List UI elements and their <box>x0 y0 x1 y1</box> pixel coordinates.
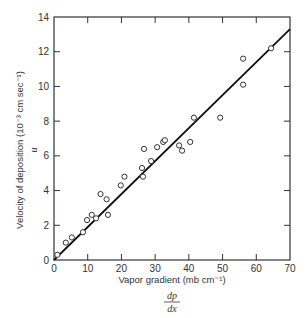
x-tick-label: 10 <box>82 263 94 274</box>
data-point <box>218 115 223 120</box>
fit-line <box>54 29 290 260</box>
data-point <box>69 235 74 240</box>
data-point <box>84 217 89 222</box>
data-point <box>155 145 160 150</box>
data-point <box>122 174 127 179</box>
x-tick-label: 30 <box>150 263 162 274</box>
data-point <box>141 146 146 151</box>
data-point <box>80 230 85 235</box>
y-tick-label: 6 <box>43 150 49 161</box>
x-symbol-denominator: dx <box>167 303 177 314</box>
data-point <box>148 158 153 163</box>
x-axis-label: Vapor gradient (mb cm⁻¹) <box>118 274 225 285</box>
y-tick-label: 0 <box>43 255 49 266</box>
data-point <box>94 216 99 221</box>
data-point <box>140 174 145 179</box>
tick-labels: 01020304050607002468101214 <box>38 12 296 275</box>
data-point <box>241 82 246 87</box>
data-point <box>98 191 103 196</box>
y-axis-label: Velocity of deposition (10⁻³ cm sec⁻¹) <box>14 71 25 229</box>
data-point <box>104 197 109 202</box>
y-tick-label: 12 <box>38 46 50 57</box>
data-point <box>162 138 167 143</box>
x-tick-label: 60 <box>251 263 263 274</box>
data-point <box>188 139 193 144</box>
data-point <box>105 212 110 217</box>
plot-frame <box>54 17 290 260</box>
data-point <box>241 56 246 61</box>
x-tick-label: 40 <box>183 263 195 274</box>
y-tick-label: 10 <box>38 81 50 92</box>
data-point <box>269 46 274 51</box>
x-tick-label: 70 <box>284 263 296 274</box>
data-point <box>63 240 68 245</box>
y-tick-label: 14 <box>38 12 50 23</box>
data-point <box>139 165 144 170</box>
axis-ticks <box>54 17 290 260</box>
y-symbol: u <box>28 148 39 153</box>
scatter-chart: 01020304050607002468101214 Vapor gradien… <box>0 0 308 318</box>
data-point <box>176 143 181 148</box>
x-tick-label: 0 <box>51 263 57 274</box>
x-tick-label: 20 <box>116 263 128 274</box>
data-point <box>191 115 196 120</box>
y-tick-label: 2 <box>43 220 49 231</box>
data-point <box>55 252 60 257</box>
y-tick-label: 8 <box>43 116 49 127</box>
x-tick-label: 50 <box>217 263 229 274</box>
x-symbol-numerator: dp <box>167 290 177 301</box>
data-point <box>180 148 185 153</box>
y-tick-label: 4 <box>43 185 49 196</box>
data-point <box>118 183 123 188</box>
